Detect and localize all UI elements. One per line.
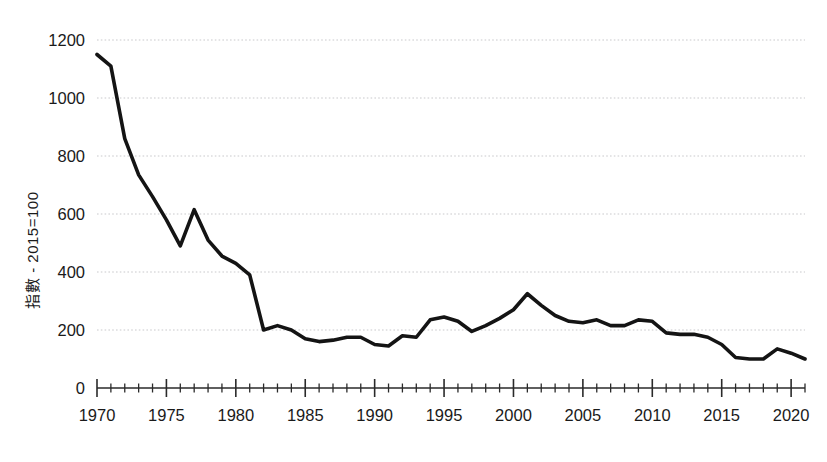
x-tick-label: 1970 xyxy=(79,406,116,424)
x-tick-label: 1985 xyxy=(287,406,324,424)
chart-background xyxy=(0,0,827,462)
x-tick-label: 2010 xyxy=(634,406,671,424)
y-tick-label: 1200 xyxy=(48,31,85,49)
y-tick-label: 200 xyxy=(57,321,85,339)
x-tick-label: 2015 xyxy=(703,406,740,424)
y-tick-label: 600 xyxy=(57,205,85,223)
x-tick-label: 1975 xyxy=(148,406,185,424)
y-tick-label: 0 xyxy=(76,379,85,397)
chart-container: 020040060080010001200 197019751980198519… xyxy=(0,0,827,462)
y-axis-title: 指數 - 2015=100 xyxy=(24,192,41,309)
y-tick-label: 400 xyxy=(57,263,85,281)
x-tick-label: 1990 xyxy=(356,406,393,424)
y-tick-label: 1000 xyxy=(48,89,85,107)
x-tick-label: 1980 xyxy=(217,406,254,424)
line-chart: 020040060080010001200 197019751980198519… xyxy=(0,0,827,462)
x-tick-label: 2020 xyxy=(773,406,810,424)
x-tick-label: 2005 xyxy=(565,406,602,424)
y-tick-label: 800 xyxy=(57,147,85,165)
x-tick-label: 1995 xyxy=(426,406,463,424)
x-tick-label: 2000 xyxy=(495,406,532,424)
